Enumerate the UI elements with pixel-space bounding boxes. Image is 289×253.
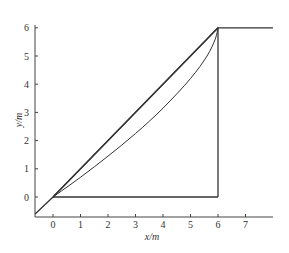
series: [35, 28, 273, 214]
x-tick-label: 4: [161, 219, 166, 230]
x-tick-label: 0: [51, 219, 56, 230]
axes: [35, 25, 273, 217]
x-tick-label: 3: [133, 219, 138, 230]
x-tick-label: 2: [106, 219, 111, 230]
y-tick-label: 1: [24, 163, 29, 174]
x-tick-label: 7: [243, 219, 248, 230]
y-tick-label: 0: [24, 192, 29, 203]
x-axis-label: x/m: [144, 231, 159, 242]
x-tick-label: 1: [78, 219, 83, 230]
y-tick-label: 4: [24, 79, 29, 90]
y-tick-label: 2: [24, 135, 29, 146]
y-tick-label: 3: [24, 107, 29, 118]
y-tick-label: 5: [24, 51, 29, 62]
y-axis-label: y/m: [13, 113, 24, 128]
x-tick-label: 6: [216, 219, 221, 230]
chord-line: [53, 28, 218, 197]
chart: 012345670123456 x/m y/m: [0, 0, 289, 253]
y-tick-label: 6: [24, 22, 29, 33]
x-tick-label: 5: [188, 219, 193, 230]
ticks: 012345670123456: [24, 22, 248, 230]
